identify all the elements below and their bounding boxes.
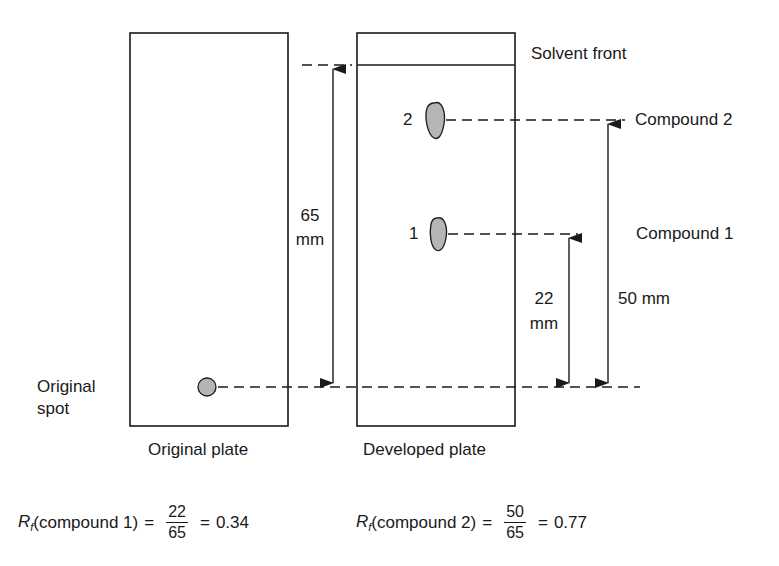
solvent-front-label: Solvent front [531, 44, 626, 64]
distance-22-value: 22 [524, 289, 564, 309]
compound-1-spot [430, 218, 446, 251]
compound-1-label: Compound 1 [636, 224, 733, 244]
compound-2-spot [426, 103, 445, 139]
original-spot-label-line1: Original [37, 377, 96, 397]
rf-subject: (compound 2) [371, 513, 476, 533]
rf-formula-compound-2: Rf (compound 2) = 50 65 = 0.77 [356, 503, 587, 542]
distance-22-unit: mm [524, 314, 564, 334]
distance-65-unit: mm [290, 230, 330, 250]
rf-symbol: Rf [18, 512, 33, 533]
developed-plate-caption: Developed plate [363, 440, 486, 460]
original-spot [198, 378, 216, 396]
distance-50-label: 50 mm [618, 289, 670, 309]
rf-result: 0.77 [554, 513, 587, 533]
equals-sign: = [200, 513, 210, 533]
spot-2-number: 2 [403, 110, 412, 130]
spot-1-number: 1 [409, 224, 418, 244]
equals-sign: = [482, 513, 492, 533]
equals-sign: = [144, 513, 154, 533]
distance-65-value: 65 [290, 206, 330, 226]
rf-fraction: 50 65 [504, 503, 526, 542]
rf-subject: (compound 1) [33, 513, 138, 533]
original-plate-caption: Original plate [148, 440, 248, 460]
original-spot-label-line2: spot [37, 399, 69, 419]
original-plate [130, 33, 288, 426]
compound-2-label: Compound 2 [635, 110, 732, 130]
equals-sign: = [538, 513, 548, 533]
rf-fraction: 22 65 [166, 503, 188, 542]
rf-result: 0.34 [216, 513, 249, 533]
rf-symbol: Rf [356, 512, 371, 533]
rf-formula-compound-1: Rf (compound 1) = 22 65 = 0.34 [18, 503, 249, 542]
tlc-diagram [0, 0, 779, 566]
